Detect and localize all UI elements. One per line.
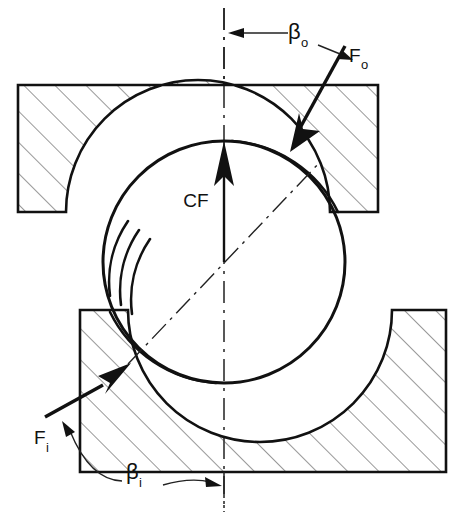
- inner-force-label: F: [34, 427, 46, 448]
- bearing-force-diagram: CF F o β o F: [0, 0, 462, 518]
- bearing-diagram-root: CF F o β o F: [0, 0, 462, 518]
- inner-force-label-subscript: i: [46, 440, 49, 455]
- cf-label: CF: [183, 190, 208, 211]
- outer-force-label-subscript: o: [361, 57, 368, 72]
- beta-outer-label: β: [288, 19, 301, 44]
- beta-inner-label: β: [126, 459, 139, 484]
- outer-force-label: F: [349, 45, 361, 66]
- beta-inner-label-subscript: i: [139, 475, 142, 490]
- beta-outer-label-subscript: o: [301, 35, 308, 50]
